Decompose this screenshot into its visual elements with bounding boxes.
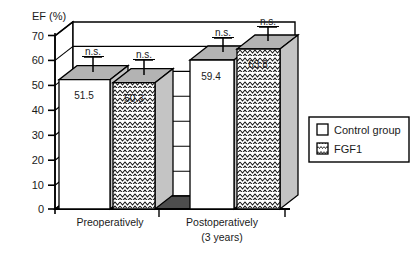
ns-annotation: n.s. bbox=[215, 27, 231, 38]
category-label-preoperatively: Preoperatively bbox=[76, 216, 144, 228]
legend-swatch-hatched-box bbox=[317, 143, 328, 154]
category-label-postoperatively-line1: Postoperatively bbox=[186, 216, 259, 228]
category-labels: Preoperatively Postoperatively (3 years) bbox=[76, 216, 258, 243]
bar-value-label: 63.8 bbox=[248, 59, 268, 70]
y-axis-title: EF (%) bbox=[32, 10, 66, 22]
bar-value-label: 51.5 bbox=[74, 90, 94, 101]
ns-annotation: n.s. bbox=[85, 46, 101, 57]
y-tick-label-0: 0 bbox=[38, 203, 44, 215]
y-tick-label-50: 50 bbox=[32, 79, 44, 91]
legend[interactable]: Control group FGF1 bbox=[309, 117, 409, 162]
y-tick-label-70: 70 bbox=[32, 30, 44, 42]
bar-fgf1-preoperatively: 50.3 bbox=[113, 69, 173, 209]
legend-label-control-group: Control group bbox=[334, 124, 401, 136]
bar-side-face bbox=[155, 69, 173, 209]
bar-side-face bbox=[280, 35, 298, 209]
ns-annotation: n.s. bbox=[260, 16, 276, 27]
chart-root: EF (%) bbox=[0, 0, 419, 253]
legend-item-fgf1[interactable]: FGF1 bbox=[317, 143, 362, 155]
y-tick-label-30: 30 bbox=[32, 129, 44, 141]
legend-swatch-empty-box bbox=[317, 124, 328, 135]
ef-bar-chart: EF (%) bbox=[0, 0, 419, 253]
y-tick-label-10: 10 bbox=[32, 179, 44, 191]
legend-label-fgf1: FGF1 bbox=[334, 143, 362, 155]
bar-value-label: 59.4 bbox=[201, 71, 221, 82]
bar-value-label: 50.3 bbox=[124, 93, 144, 104]
bar-fgf1-postoperatively: 63.8 bbox=[237, 35, 298, 209]
y-tick-label-20: 20 bbox=[32, 154, 44, 166]
category-label-postoperatively-line2: (3 years) bbox=[201, 231, 242, 243]
bar-front-face bbox=[190, 60, 234, 209]
y-tick-label-60: 60 bbox=[32, 54, 44, 66]
ns-annotation: n.s. bbox=[136, 49, 152, 60]
y-tick-label-40: 40 bbox=[32, 104, 44, 116]
y-axis: 0 10 20 30 40 50 60 70 bbox=[32, 30, 55, 216]
bar-front-face bbox=[237, 49, 280, 209]
